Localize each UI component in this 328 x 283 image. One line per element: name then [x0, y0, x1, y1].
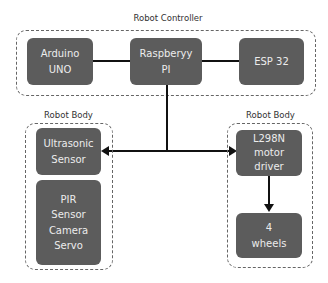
node-text: Sensor — [51, 207, 85, 223]
node-text: PIR — [61, 192, 77, 208]
node-text: L298N — [253, 132, 285, 146]
node-text: Ultrasonic — [43, 136, 93, 152]
group-title-robot-body-right: Robot Body — [227, 110, 314, 120]
node-text: Servo — [54, 238, 83, 254]
node-text: Sensor — [51, 152, 85, 168]
node-arduino-uno: Arduino UNO — [27, 38, 93, 85]
node-esp32: ESP 32 — [239, 38, 304, 85]
connector-arduino-raspberry — [93, 60, 130, 62]
node-text: PI — [162, 62, 171, 78]
connector-trunk — [166, 85, 168, 152]
node-text: motor — [254, 146, 284, 160]
node-text: 4 — [266, 220, 272, 236]
group-title-robot-body-left: Robot Body — [25, 110, 112, 120]
node-4-wheels: 4 wheels — [236, 213, 302, 258]
node-text: Arduino — [41, 46, 80, 62]
arrowhead-down-icon — [264, 204, 274, 212]
group-title-robot-controller: Robot Controller — [120, 13, 216, 23]
node-text: Raspberyy — [140, 46, 193, 62]
node-sensors-camera-servo: PIR Sensor Camera Servo — [36, 180, 101, 265]
node-ultrasonic-sensor: Ultrasonic Sensor — [36, 128, 101, 175]
node-text: Camera — [49, 223, 88, 239]
node-raspberry-pi: Raspberyy PI — [130, 38, 202, 85]
node-text: UNO — [49, 62, 72, 78]
connector-branch — [108, 150, 230, 152]
node-text: ESP 32 — [254, 54, 289, 70]
connector-motor-wheels — [268, 176, 270, 205]
node-l298n-motor-driver: L298N motor driver — [236, 130, 302, 176]
connector-raspberry-esp — [202, 60, 239, 62]
node-text: driver — [254, 160, 283, 174]
node-text: wheels — [252, 236, 287, 252]
